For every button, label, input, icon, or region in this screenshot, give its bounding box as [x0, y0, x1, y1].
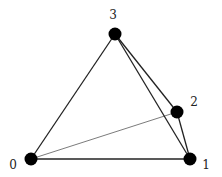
node-label-2: 2: [190, 96, 198, 108]
node-3: [109, 28, 122, 41]
node-label-0: 0: [9, 159, 17, 171]
node-2: [171, 106, 184, 119]
graph-diagram: 0 1 2 3: [0, 0, 222, 177]
graph-canvas: [0, 0, 222, 177]
edge-0-3: [31, 34, 115, 159]
edge-2-1: [177, 112, 190, 159]
edge-0-2: [31, 112, 177, 159]
node-1: [184, 153, 197, 166]
edge-3-2: [115, 34, 177, 112]
nodes-group: [25, 28, 197, 166]
node-0: [25, 153, 38, 166]
edges-group: [31, 34, 190, 159]
node-label-1: 1: [202, 159, 210, 171]
edge-3-1: [115, 34, 190, 159]
node-label-3: 3: [109, 9, 117, 21]
